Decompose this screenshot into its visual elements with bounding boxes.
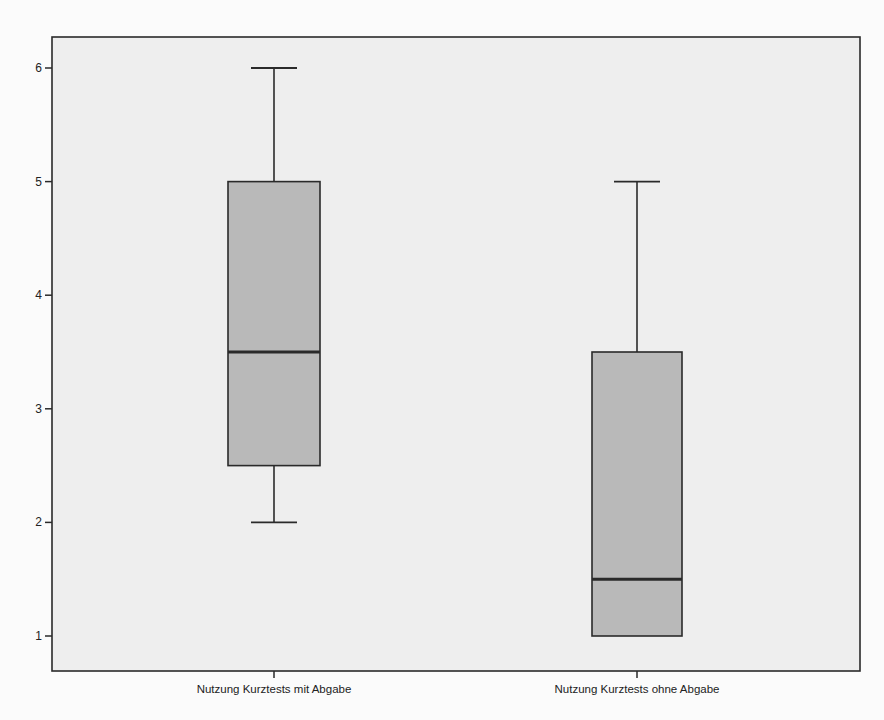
y-tick-label: 4 [35, 288, 42, 302]
y-tick-label: 1 [35, 629, 42, 643]
y-tick-label: 3 [35, 402, 42, 416]
x-category-label: Nutzung Kurztests mit Abgabe [197, 683, 352, 695]
x-axis: Nutzung Kurztests mit AbgabeNutzung Kurz… [197, 671, 720, 695]
iqr-box [228, 182, 320, 466]
plot-area [52, 37, 860, 671]
y-axis: 123456 [35, 61, 52, 643]
boxplot-chart: 123456 Nutzung Kurztests mit AbgabeNutzu… [0, 0, 884, 720]
y-tick-label: 6 [35, 61, 42, 75]
y-tick-label: 5 [35, 175, 42, 189]
y-tick-label: 2 [35, 515, 42, 529]
x-category-label: Nutzung Kurztests ohne Abgabe [555, 683, 720, 695]
iqr-box [592, 352, 682, 636]
